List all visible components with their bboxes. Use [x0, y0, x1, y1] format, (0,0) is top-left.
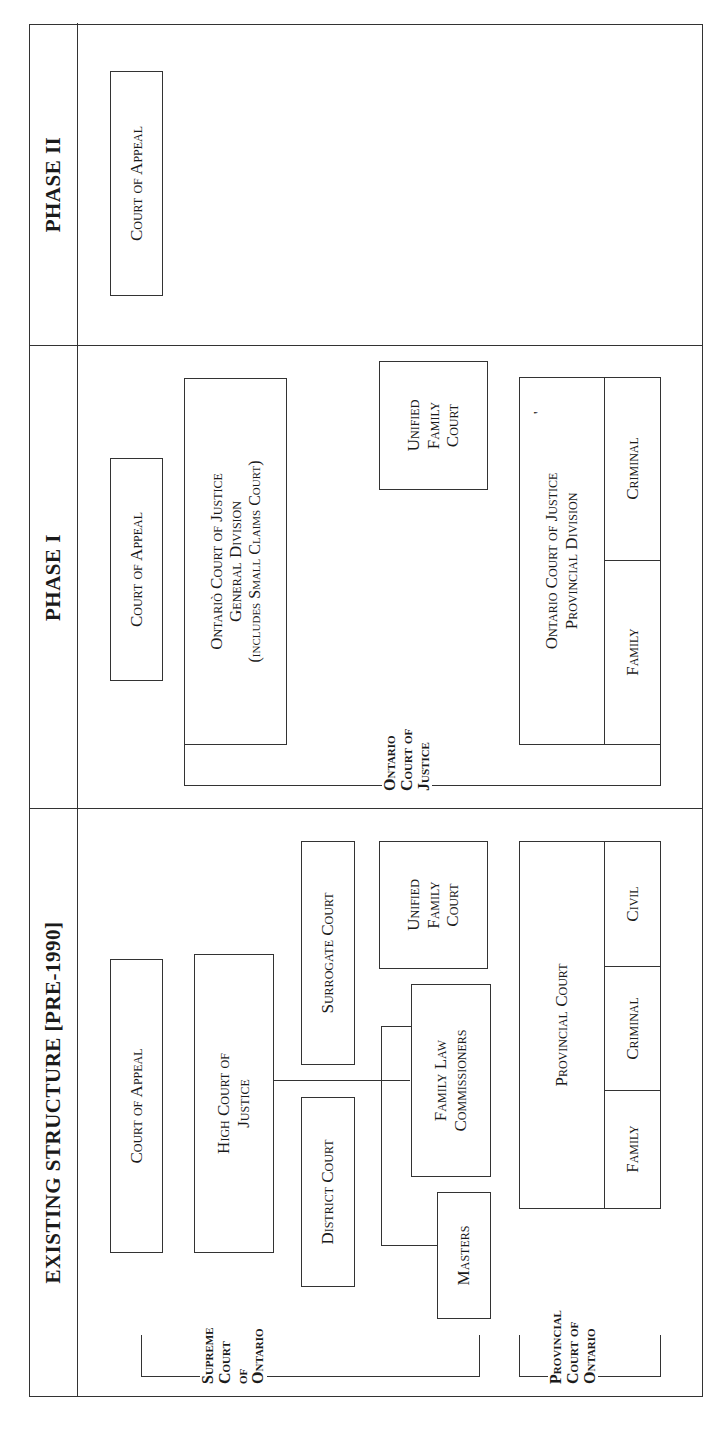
- label-line: Supreme: [200, 1324, 217, 1384]
- label-line: Court of: [565, 1304, 582, 1384]
- box-label: Ontariò Court of Justice: [207, 461, 227, 663]
- group-label-provincial-court: Provincial Court of Ontario: [548, 1298, 598, 1390]
- connector-line: [381, 1245, 437, 1246]
- connector-line: [381, 1027, 382, 1246]
- phase1-unified-family-court: Unified Family Court: [379, 361, 488, 490]
- box-label: (includes Small Claims Court): [246, 461, 264, 663]
- group-label-supreme-court: Supreme Court of Ontario: [200, 1318, 267, 1390]
- box-label: Commissioners: [451, 1029, 471, 1131]
- label-line: Justice: [416, 713, 433, 791]
- court-structure-diagram: EXISTING STRUCTURE [PRE-1990] PHASE I PH…: [29, 24, 703, 1397]
- box-label: Family: [424, 400, 444, 452]
- box-label: Surrogate Court: [318, 893, 338, 1014]
- stray-mark: ': [532, 411, 548, 414]
- label-line: Ontario: [250, 1324, 267, 1384]
- column-divider: [30, 808, 702, 809]
- division-family: Family: [604, 1090, 661, 1209]
- label-line: Ontario: [382, 713, 399, 791]
- box-label: Masters: [454, 1226, 474, 1286]
- box-label: General Division: [226, 461, 246, 663]
- existing-district-court: District Court: [301, 1097, 355, 1287]
- existing-family-law-commissioners: Family Law Commissioners: [411, 984, 491, 1177]
- box-label: Unified: [404, 879, 424, 931]
- box-label: Court of Appeal: [127, 1048, 147, 1163]
- provincial-court-title: Provincial Court: [520, 842, 604, 1208]
- existing-court-of-appeal: Court of Appeal: [110, 959, 163, 1253]
- box-label: High Court of: [214, 1053, 234, 1154]
- header-phase-2: PHASE II: [30, 23, 78, 346]
- box-label: Unified: [404, 400, 424, 452]
- provincial-division-title: Ontario Court of Justice Provincial Divi…: [520, 378, 604, 744]
- label-line: Ontario: [582, 1304, 599, 1384]
- existing-surrogate-court: Surrogate Court: [301, 841, 355, 1065]
- connector-line: [273, 1080, 410, 1081]
- phase2-court-of-appeal: Court of Appeal: [110, 71, 163, 296]
- box-label: Family Law: [431, 1029, 451, 1131]
- division-criminal: Criminal: [604, 966, 661, 1091]
- header-existing-structure: EXISTING STRUCTURE [PRE-1990]: [30, 809, 78, 1396]
- label-line: Court of: [399, 713, 416, 791]
- division-criminal: Criminal: [604, 377, 661, 561]
- group-label-ontario-court-of-justice: Ontario Court of Justice: [382, 707, 432, 797]
- bracket-supreme-court: [141, 1335, 480, 1377]
- box-label: Court of Appeal: [127, 512, 147, 627]
- phase1-court-of-appeal: Court of Appeal: [110, 458, 163, 681]
- box-label: Court: [443, 400, 463, 452]
- box-label: Family: [424, 879, 444, 931]
- phase1-general-division: Ontariò Court of Justice General Divisio…: [184, 378, 287, 745]
- label-line: Court of: [217, 1324, 251, 1384]
- connector-line: [381, 1026, 411, 1027]
- box-label: District Court: [318, 1139, 338, 1244]
- box-label: Ontario Court of Justice: [542, 473, 562, 650]
- box-label: Justice: [234, 1053, 254, 1154]
- existing-unified-family-court: Unified Family Court: [379, 841, 488, 969]
- box-label: Court: [443, 879, 463, 931]
- division-civil: Civil: [604, 841, 661, 967]
- box-label: Court of Appeal: [127, 126, 147, 241]
- label-line: Provincial: [548, 1304, 565, 1384]
- existing-high-court-of-justice: High Court of Justice: [194, 954, 274, 1253]
- column-divider: [30, 345, 702, 346]
- existing-provincial-court: Provincial Court Family Criminal Civil: [519, 841, 661, 1209]
- existing-masters: Masters: [437, 1192, 491, 1319]
- phase1-provincial-division: Ontario Court of Justice Provincial Divi…: [519, 377, 661, 745]
- division-family: Family: [604, 560, 661, 745]
- header-phase-1: PHASE I: [30, 346, 78, 809]
- box-label: Provincial Division: [562, 473, 582, 650]
